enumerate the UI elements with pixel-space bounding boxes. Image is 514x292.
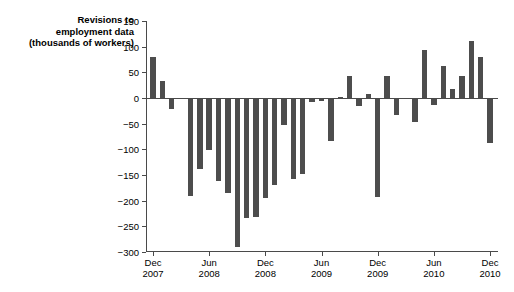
x-axis-tick bbox=[490, 252, 491, 256]
y-axis-tick-label: −100 bbox=[118, 144, 139, 155]
bar bbox=[150, 57, 155, 98]
bar bbox=[253, 98, 258, 217]
x-axis-tick bbox=[322, 252, 323, 256]
bar bbox=[431, 98, 436, 105]
bar bbox=[281, 98, 286, 125]
y-axis-tick-label: 0 bbox=[134, 93, 139, 104]
y-axis-tick bbox=[142, 252, 146, 253]
y-axis-tick-label: −150 bbox=[118, 170, 139, 181]
x-axis-tick-label: Dec 2007 bbox=[142, 257, 163, 279]
bar bbox=[263, 98, 268, 198]
bar bbox=[394, 98, 399, 115]
y-axis-tick bbox=[142, 72, 146, 73]
chart-title: Revisions to employment data (thousands … bbox=[18, 14, 134, 49]
bar bbox=[412, 98, 417, 122]
bar bbox=[347, 76, 352, 98]
x-axis-tick-label: Jun 2009 bbox=[311, 257, 332, 279]
y-axis-tick-label: 150 bbox=[123, 16, 139, 27]
y-axis-tick bbox=[142, 124, 146, 125]
bar bbox=[188, 98, 193, 196]
bar bbox=[328, 98, 333, 141]
bar bbox=[225, 98, 230, 193]
x-axis-tick bbox=[434, 252, 435, 256]
chart-figure: Revisions to employment data (thousands … bbox=[0, 0, 514, 292]
bar bbox=[469, 41, 474, 98]
bar bbox=[291, 98, 296, 179]
bar bbox=[356, 98, 361, 106]
y-axis-tick bbox=[142, 201, 146, 202]
y-axis-tick-label: −50 bbox=[123, 118, 139, 129]
y-axis-tick bbox=[142, 226, 146, 227]
y-axis-tick-label: 50 bbox=[128, 67, 139, 78]
x-axis-tick bbox=[378, 252, 379, 256]
y-axis-tick bbox=[142, 47, 146, 48]
bar bbox=[244, 98, 249, 218]
x-axis-tick-label: Dec 2008 bbox=[255, 257, 276, 279]
bar bbox=[206, 98, 211, 150]
x-axis-tick bbox=[153, 252, 154, 256]
y-axis-tick-label: −250 bbox=[118, 221, 139, 232]
x-axis-tick bbox=[209, 252, 210, 256]
bar bbox=[459, 76, 464, 98]
bar bbox=[300, 98, 305, 174]
bar bbox=[487, 98, 492, 143]
bar bbox=[169, 98, 174, 109]
bar bbox=[450, 89, 455, 98]
bar bbox=[422, 50, 427, 98]
bar bbox=[272, 98, 277, 185]
zero-baseline bbox=[146, 98, 498, 99]
y-axis-line bbox=[146, 21, 147, 252]
bar bbox=[216, 98, 221, 181]
bar bbox=[197, 98, 202, 169]
y-axis-tick bbox=[142, 21, 146, 22]
y-axis-tick-label: −200 bbox=[118, 195, 139, 206]
x-axis-tick-label: Jun 2008 bbox=[199, 257, 220, 279]
y-axis-tick-label: −300 bbox=[118, 247, 139, 258]
bar bbox=[235, 98, 240, 247]
bar bbox=[478, 57, 483, 98]
y-axis-tick-label: 100 bbox=[123, 41, 139, 52]
bar bbox=[375, 98, 380, 197]
y-axis-tick bbox=[142, 149, 146, 150]
bar bbox=[384, 76, 389, 98]
x-axis-tick-label: Dec 2009 bbox=[367, 257, 388, 279]
x-axis-tick bbox=[265, 252, 266, 256]
x-axis-tick-label: Jun 2010 bbox=[423, 257, 444, 279]
bar bbox=[441, 66, 446, 98]
plot-area: 150100500−50−100−150−200−250−300 Dec 200… bbox=[146, 21, 498, 252]
y-axis-tick bbox=[142, 175, 146, 176]
x-axis-tick-label: Dec 2010 bbox=[479, 257, 500, 279]
bar bbox=[160, 81, 165, 98]
